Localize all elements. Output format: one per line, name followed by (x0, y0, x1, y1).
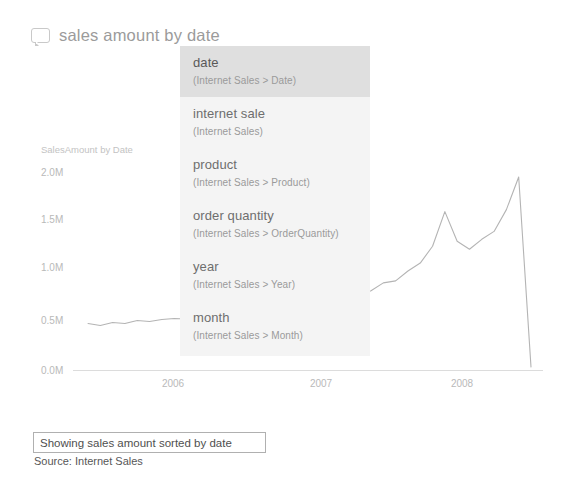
suggestion-subtitle: (Internet Sales) (193, 124, 370, 139)
suggestion-subtitle: (Internet Sales > OrderQuantity) (193, 226, 370, 241)
suggestion-item-year[interactable]: year(Internet Sales > Year) (180, 250, 370, 301)
suggestion-subtitle: (Internet Sales > Product) (193, 175, 370, 190)
suggestion-title: internet sale (193, 106, 370, 122)
suggestion-subtitle: (Internet Sales > Year) (193, 277, 370, 292)
suggestion-title: date (193, 55, 370, 71)
result-caption-box: Showing sales amount sorted by date (33, 432, 266, 453)
suggestion-subtitle: (Internet Sales > Month) (193, 328, 370, 343)
suggestion-item-order-quantity[interactable]: order quantity(Internet Sales > OrderQua… (180, 199, 370, 250)
suggestion-item-product[interactable]: product(Internet Sales > Product) (180, 148, 370, 199)
suggestion-dropdown[interactable]: date(Internet Sales > Date)internet sale… (180, 46, 370, 356)
suggestion-title: order quantity (193, 208, 370, 224)
suggestion-item-month[interactable]: month(Internet Sales > Month) (180, 301, 370, 352)
suggestion-subtitle: (Internet Sales > Date) (193, 73, 370, 88)
suggestion-title: month (193, 310, 370, 326)
result-caption-text: Showing sales amount sorted by date (40, 437, 232, 449)
suggestion-item-internet-sale[interactable]: internet sale(Internet Sales) (180, 97, 370, 148)
source-label: Source: Internet Sales (34, 455, 143, 467)
suggestion-item-date[interactable]: date(Internet Sales > Date) (180, 46, 370, 97)
suggestion-title: year (193, 259, 370, 275)
suggestion-title: product (193, 157, 370, 173)
